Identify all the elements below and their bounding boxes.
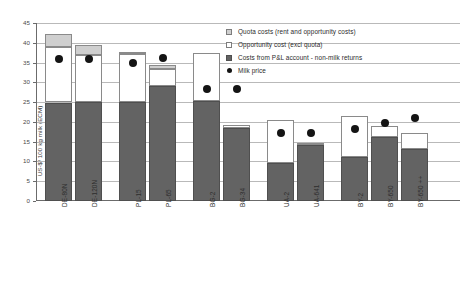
y-axis-tick-label: 45 [8,20,30,26]
y-axis-tick-mark [33,201,36,202]
y-axis-tick-label: 10 [8,158,30,164]
opportunity-swatch-icon [226,42,232,48]
y-axis-tick-label: 0 [8,198,30,204]
milk-price-marker [233,85,241,93]
y-axis-tick-mark [33,122,36,123]
legend-item-opportunity-cost: Opportunity cost (excl quota) [226,38,426,51]
x-axis-label: PL-15 [135,189,142,207]
segment-pl-costs [119,102,146,201]
x-axis-label: UA-641 [313,184,320,207]
segment-opportunity-cost [267,120,294,163]
y-axis-tick-mark [33,142,36,143]
x-axis-label: BY-2 [357,193,364,207]
bar-pl-65 [149,23,176,201]
segment-opportunity-cost [401,133,428,149]
x-axis-label: BY-650 ++ [417,176,424,207]
segment-opportunity-cost [341,116,368,158]
bar-de-120n [75,23,102,201]
y-axis-tick-mark [33,23,36,24]
legend-label: Opportunity cost (excl quota) [238,41,323,48]
milk-price-marker-icon [227,68,232,73]
y-axis-tick-label: 25 [8,99,30,105]
x-axis-label: BY-650 [387,185,394,207]
segment-quota-costs [75,45,102,54]
milk-price-marker [277,129,285,137]
milk-price-marker [159,54,167,62]
cost-of-milk-production-chart: US-$/ 100 kg milk (ECM) 0510152025303540… [0,0,468,282]
segment-opportunity-cost [297,143,324,145]
y-axis-tick-label: 35 [8,59,30,65]
legend-label: Costs from P&L account - non-milk return… [238,54,362,61]
segment-quota-costs [45,34,72,47]
y-axis-tick-label: 15 [8,139,30,145]
y-axis-tick-label: 5 [8,178,30,184]
segment-opportunity-cost [149,69,176,86]
legend-item-milk-price: Milk price [226,64,426,77]
milk-price-marker [203,85,211,93]
y-axis-tick-label: 40 [8,40,30,46]
y-axis-tick-mark [33,102,36,103]
x-axis-label: DE-120N [91,180,98,207]
pl-swatch-icon [226,55,232,61]
x-axis-label: BG-2 [209,191,216,207]
segment-quota-costs [119,52,146,54]
x-axis-label: PL-65 [165,189,172,207]
chart-legend: Quota costs (rent and opportunity costs)… [226,25,426,77]
segment-opportunity-cost [371,126,398,137]
milk-price-marker [129,59,137,67]
bar-pl-15 [119,23,146,201]
x-axis-label: UA-2 [283,192,290,207]
y-axis-tick-label: 30 [8,79,30,85]
x-axis-label: BG-34 [239,188,246,207]
legend-label: Milk price [238,67,266,74]
segment-opportunity-cost [223,125,250,128]
milk-price-marker [85,55,93,63]
y-axis-tick-mark [33,82,36,83]
quota-swatch-icon [226,29,232,35]
segment-quota-costs [149,65,176,69]
segment-pl-costs [149,86,176,201]
y-axis-tick-label: 20 [8,119,30,125]
milk-price-marker [351,125,359,133]
bar-de-80n [45,23,72,201]
segment-opportunity-cost [193,53,220,101]
milk-price-marker [307,129,315,137]
legend-item-pl-costs: Costs from P&L account - non-milk return… [226,51,426,64]
legend-label: Quota costs (rent and opportunity costs) [238,28,356,35]
milk-price-marker [55,55,63,63]
legend-item-quota-costs: Quota costs (rent and opportunity costs) [226,25,426,38]
y-axis-tick-mark [33,63,36,64]
segment-pl-costs [193,101,220,201]
milk-price-marker [411,114,419,122]
y-axis-tick-mark [33,161,36,162]
y-axis-tick-mark [33,43,36,44]
bar-bg-2 [193,23,220,201]
x-axis-label: DE-80N [61,183,68,207]
y-axis-tick-mark [33,181,36,182]
